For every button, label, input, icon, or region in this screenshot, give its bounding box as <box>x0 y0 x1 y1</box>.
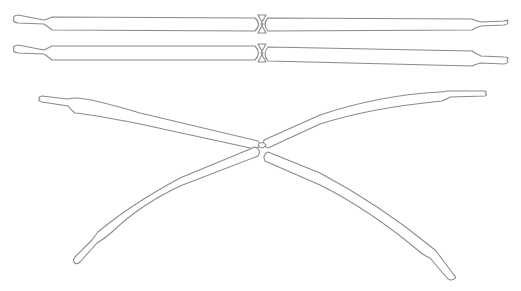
x-crossing <box>39 91 487 280</box>
straight-pair-top <box>14 15 509 33</box>
straight-pair-bottom <box>14 44 509 66</box>
balloon-drawing <box>0 0 521 291</box>
illustration-canvas <box>0 0 521 291</box>
